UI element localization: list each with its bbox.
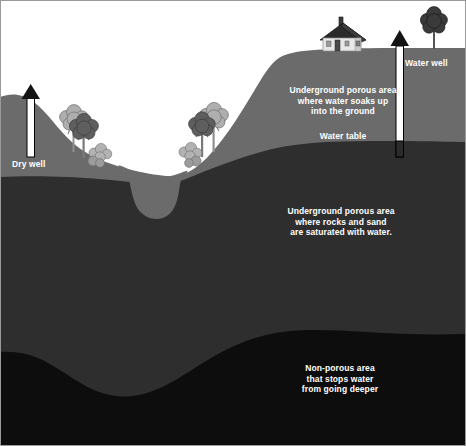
groundwater-diagram: Underground porous area where water soak… (0, 0, 466, 446)
diagram-border (0, 0, 466, 446)
